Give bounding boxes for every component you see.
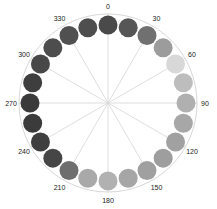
angle-label-330: 330 [54,15,66,22]
angle-label-180: 180 [102,197,114,204]
polar-wheel-diagram: 0306090120150180210240270300330 [0,0,217,209]
angle-label-120: 120 [186,148,198,155]
angle-label-210: 210 [54,184,66,191]
dot-240 [31,133,50,152]
dot-105 [174,114,193,133]
dot-255 [23,114,42,133]
dot-225 [43,149,62,168]
angle-label-0: 0 [106,3,110,10]
dot-135 [154,149,173,168]
dot-195 [78,169,97,188]
angle-label-90: 90 [201,100,209,107]
dot-150 [138,161,157,180]
dot-90 [177,94,196,113]
dot-330 [60,26,79,45]
dot-300 [31,55,50,74]
dot-180 [99,172,118,191]
dot-270 [21,94,40,113]
angle-label-240: 240 [18,148,30,155]
spokes [19,14,197,192]
dot-285 [23,73,42,92]
dot-60 [166,55,185,74]
dot-15 [119,18,138,37]
dot-165 [119,169,138,188]
angle-label-270: 270 [5,100,17,107]
wheel-canvas: 0306090120150180210240270300330 [0,0,217,209]
angle-label-60: 60 [188,51,196,58]
dot-315 [43,38,62,57]
dot-345 [78,18,97,37]
dot-75 [174,73,193,92]
angle-label-30: 30 [153,15,161,22]
dot-45 [154,38,173,57]
angle-label-150: 150 [151,184,163,191]
angle-label-300: 300 [18,51,30,58]
dot-30 [138,26,157,45]
dot-210 [60,161,79,180]
dot-0 [99,16,118,35]
dot-120 [166,133,185,152]
